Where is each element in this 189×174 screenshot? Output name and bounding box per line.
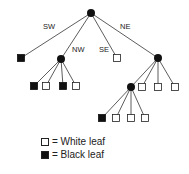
legend-black: = Black leaf — [41, 150, 104, 160]
quadtree-diagram: SW NW SE NE — [0, 0, 189, 174]
label-sw: SW — [43, 22, 56, 31]
black-leaf-sw — [18, 55, 25, 62]
black-leaf-ne1-1 — [99, 115, 106, 122]
white-leaf-nw-4 — [73, 83, 80, 90]
white-leaf-ne1-2 — [113, 115, 120, 122]
edge-nw-4 — [61, 59, 76, 86]
legend-black-label: = Black leaf — [52, 150, 104, 160]
white-leaf-nw-2 — [43, 83, 50, 90]
edge-ne-4 — [158, 58, 175, 87]
white-square-icon — [41, 138, 49, 146]
legend-white: = White leaf — [41, 137, 105, 147]
white-leaf-ne-3 — [155, 84, 162, 91]
root-node — [87, 9, 95, 17]
edge-nw-1 — [34, 59, 61, 86]
edge-ne1-4 — [131, 87, 145, 118]
white-leaf-ne1-4 — [142, 115, 149, 122]
white-leaf-ne-2 — [139, 84, 146, 91]
legend-white-label: = White leaf — [52, 137, 105, 147]
internal-node-ne1 — [127, 83, 135, 91]
black-leaf-nw-3 — [60, 83, 67, 90]
edge-ne1-1 — [102, 87, 131, 118]
edge-labels: SW NW SE NE — [43, 22, 130, 54]
internal-node-nw — [57, 55, 65, 63]
edge-nw-2 — [46, 59, 61, 86]
edge-nw-3 — [61, 59, 63, 86]
edge-ne1-2 — [116, 87, 131, 118]
label-ne: NE — [120, 22, 130, 31]
white-leaf-se — [114, 55, 121, 62]
internal-node-ne — [154, 54, 162, 62]
white-leaf-ne-4 — [172, 84, 179, 91]
black-leaf-nw-1 — [31, 83, 38, 90]
white-leaf-ne1-3 — [128, 115, 135, 122]
black-square-icon — [41, 151, 49, 159]
label-se: SE — [99, 45, 109, 54]
label-nw: NW — [72, 45, 85, 54]
